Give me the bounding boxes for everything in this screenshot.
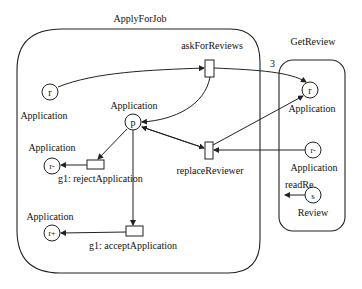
petri-net-diagram: ApplyForJob GetReview r Applicati xyxy=(0,0,362,289)
place-token: r- xyxy=(310,146,316,155)
place-r-minus[interactable]: r- Application xyxy=(28,142,75,174)
place-token: r- xyxy=(49,162,55,171)
place-type-label: Application xyxy=(290,162,337,173)
place-type-label: Application xyxy=(28,142,75,153)
multiplicity-label: 3 xyxy=(270,58,275,69)
arc-p-to-replacereviewer xyxy=(142,127,204,148)
readre-label: readRe xyxy=(285,179,314,190)
component-title: ApplyForJob xyxy=(114,13,167,24)
place-r[interactable]: r Application xyxy=(20,84,67,121)
arc-accept-to-rplus xyxy=(61,232,126,233)
place-token: p xyxy=(131,117,136,128)
transition-replace-reviewer[interactable]: replaceReviewer xyxy=(176,142,244,176)
place-type-label: Application xyxy=(288,103,335,114)
place-review-r[interactable]: r Application xyxy=(288,82,335,114)
arc-p-to-reject xyxy=(98,129,127,159)
arcs xyxy=(58,68,306,233)
place-r-plus[interactable]: r+ Application xyxy=(26,211,73,241)
transition-label: replaceReviewer xyxy=(176,165,244,176)
place-token: r+ xyxy=(48,229,56,238)
place-type-label: Application xyxy=(20,110,67,121)
place-token: s xyxy=(311,191,315,201)
place-type-label: Review xyxy=(298,207,329,218)
place-p[interactable]: p Application xyxy=(110,100,157,130)
transition-ask-for-reviews[interactable]: askForReviews xyxy=(181,40,243,77)
transition-reject-application[interactable]: g1: rejectApplication xyxy=(58,160,143,184)
place-review-s[interactable]: s Review xyxy=(298,187,329,218)
arc-r-to-askforreviews xyxy=(58,68,204,87)
place-type-label: Application xyxy=(26,211,73,222)
place-review-r-minus[interactable]: r- Application xyxy=(290,142,337,173)
transition-label: g1: rejectApplication xyxy=(58,173,143,184)
transition-accept-application[interactable]: g1: acceptApplication xyxy=(89,226,177,251)
component-title: GetReview xyxy=(291,36,337,47)
place-type-label: Application xyxy=(110,100,157,111)
transition-label: askForReviews xyxy=(181,40,243,51)
transition-label: g1: acceptApplication xyxy=(89,240,177,251)
